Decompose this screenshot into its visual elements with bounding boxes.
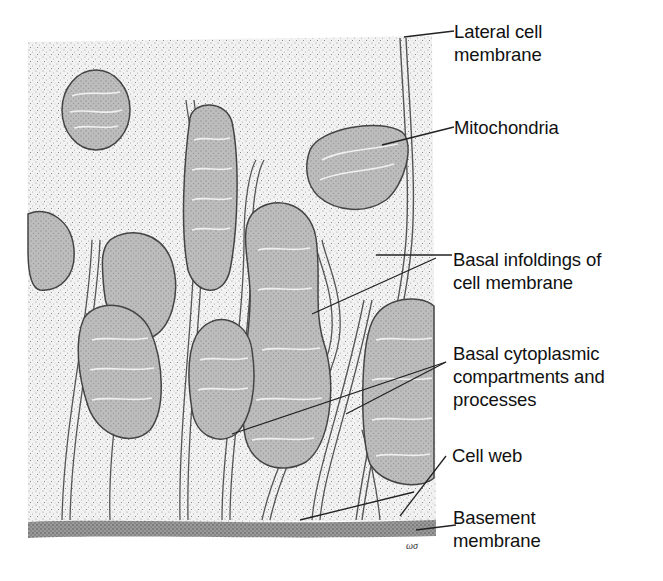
label-basement-membrane: Basement membrane xyxy=(453,506,541,552)
label-cell-web: Cell web xyxy=(452,444,522,467)
label-basal-cytoplasmic-compartments: Basal cytoplasmic compartments and proce… xyxy=(453,342,605,411)
artist-signature: ωσ xyxy=(406,540,418,551)
basement-membrane-structure xyxy=(28,520,436,538)
label-basal-infoldings: Basal infoldings of cell membrane xyxy=(453,248,601,294)
label-mitochondria: Mitochondria xyxy=(454,116,559,139)
mitochondrion xyxy=(189,320,254,439)
label-lateral-cell-membrane: Lateral cell membrane xyxy=(454,20,542,66)
mitochondrion xyxy=(184,105,238,290)
mitochondrion xyxy=(363,299,434,485)
